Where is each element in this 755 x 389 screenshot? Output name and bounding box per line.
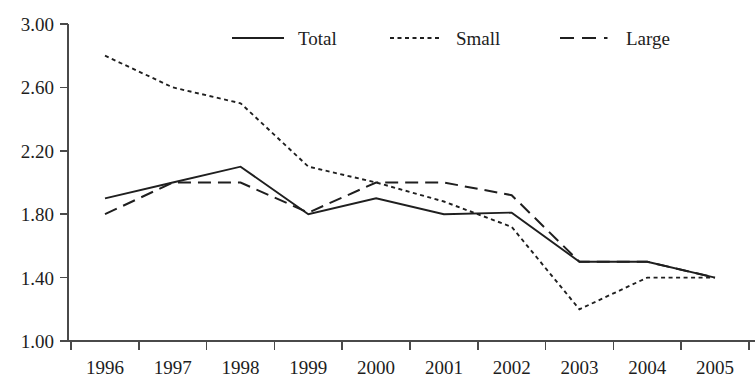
y-axis-tick-label: 2.20 <box>21 141 54 162</box>
x-axis-tick-label: 2000 <box>357 357 395 378</box>
x-axis: 1996199719981999200020012002200320042005 <box>68 341 755 378</box>
legend-label-total: Total <box>298 28 337 49</box>
y-axis-tick-label: 2.60 <box>21 77 54 98</box>
x-axis-tick-label: 2005 <box>696 357 734 378</box>
x-axis-tick-label: 1996 <box>86 357 124 378</box>
data-series-group <box>105 56 715 310</box>
y-axis-tick-label: 1.80 <box>21 204 54 225</box>
x-axis-tick-label: 1998 <box>222 357 260 378</box>
legend-label-large: Large <box>626 28 670 49</box>
y-axis-tick-label: 1.00 <box>21 331 54 352</box>
legend-label-small: Small <box>456 28 500 49</box>
y-axis-tick-label: 1.40 <box>21 268 54 289</box>
x-axis-tick-label: 1997 <box>154 357 192 378</box>
series-line-large <box>105 183 715 278</box>
x-axis-tick-label: 2002 <box>493 357 531 378</box>
line-chart-figure: TotalSmallLarge 1.001.401.802.202.603.00… <box>0 0 755 389</box>
chart-legend: TotalSmallLarge <box>232 28 670 49</box>
y-axis: 1.001.401.802.202.603.00 <box>21 14 68 352</box>
y-axis-tick-label: 3.00 <box>21 14 54 35</box>
x-axis-tick-label: 2003 <box>560 357 598 378</box>
x-axis-tick-label: 2001 <box>425 357 463 378</box>
x-axis-tick-label: 2004 <box>628 357 667 378</box>
x-axis-tick-label: 1999 <box>289 357 327 378</box>
chart-canvas: TotalSmallLarge 1.001.401.802.202.603.00… <box>0 0 755 389</box>
